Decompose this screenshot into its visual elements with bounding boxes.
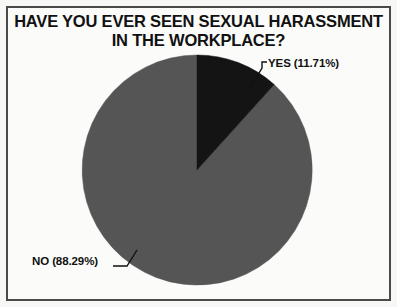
pie-label-yes: YES (11.71%) <box>268 57 339 69</box>
chart-container: HAVE YOU EVER SEEN SEXUAL HARASSMENT IN … <box>0 0 397 307</box>
pie-label-no: NO (88.29%) <box>32 255 98 267</box>
